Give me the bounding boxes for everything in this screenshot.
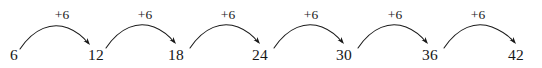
jump-label: +6 [138,8,153,22]
jump-arc [274,25,342,48]
jump-label: +6 [221,8,236,22]
jump-label: +6 [388,8,403,22]
jump-arc [358,25,426,48]
node-value: 36 [422,47,438,63]
jump-label: +6 [304,8,319,22]
jump-arc [20,26,88,49]
node-value: 30 [336,47,352,63]
node-value: 24 [252,47,268,63]
arrow-heads [84,37,518,47]
node-value: 18 [168,47,184,63]
jump-arc [444,25,514,48]
jump-arrows-layer [0,0,542,68]
jump-label: +6 [471,8,486,22]
jump-arc [190,25,258,48]
jump-arc [106,25,174,48]
node-value: 12 [88,47,104,63]
jump-label: +6 [55,8,70,22]
node-value: 6 [10,47,18,63]
node-value: 42 [508,47,524,63]
number-line-figure: +6+6+6+6+6+6 6121824303642 [0,0,542,68]
